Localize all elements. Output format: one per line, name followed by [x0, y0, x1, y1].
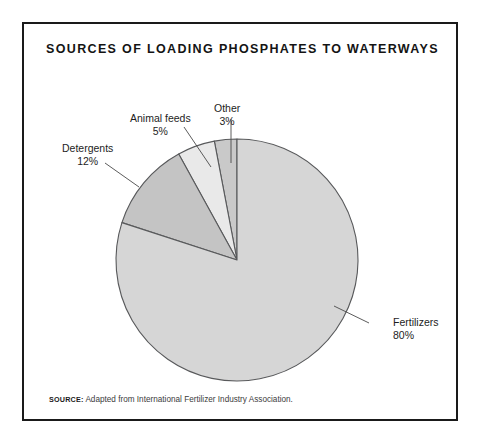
- pie-label-animal-feeds-value: 5%: [130, 125, 191, 138]
- source-label: SOURCE:: [49, 395, 84, 404]
- source-text: Adapted from International Fertilizer In…: [85, 395, 293, 404]
- pie-label-other: Other 3%: [214, 102, 240, 128]
- pie-label-animal-feeds-name: Animal feeds: [130, 112, 191, 124]
- pie-label-fertilizers-name: Fertilizers: [393, 316, 439, 328]
- source-note: SOURCE: Adapted from International Ferti…: [49, 395, 293, 404]
- pie-label-other-name: Other: [214, 102, 240, 114]
- pie-label-fertilizers: Fertilizers 80%: [393, 316, 439, 342]
- figure-frame: SOURCES OF LOADING PHOSPHATES TO WATERWA…: [22, 22, 458, 421]
- pie-chart-svg: [24, 24, 460, 423]
- pie-label-fertilizers-value: 80%: [393, 329, 439, 342]
- pie-label-detergents: Detergents 12%: [62, 142, 113, 168]
- pie-chart: Detergents 12% Animal feeds 5% Other 3% …: [24, 24, 460, 423]
- pie-label-detergents-name: Detergents: [62, 142, 113, 154]
- pie-label-animal-feeds: Animal feeds 5%: [130, 112, 191, 138]
- pie-label-other-value: 3%: [214, 115, 240, 128]
- pie-label-detergents-value: 12%: [62, 155, 113, 168]
